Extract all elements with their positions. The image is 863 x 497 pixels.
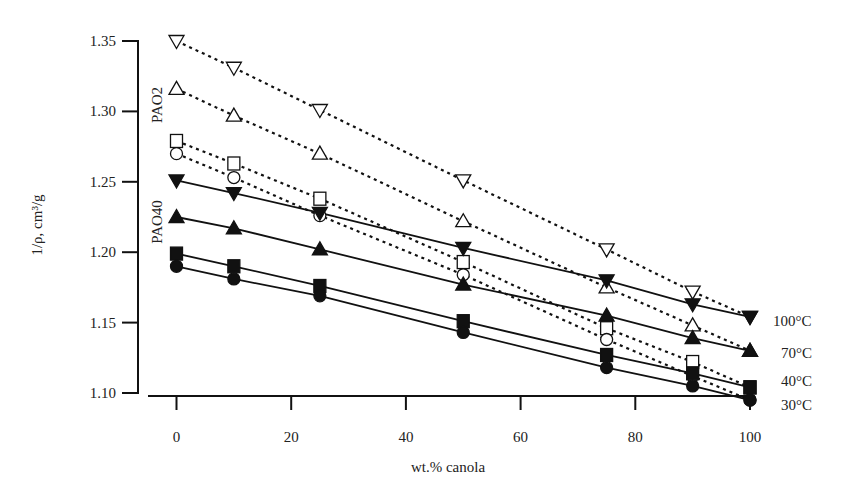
marker-pao2-100c	[685, 286, 700, 299]
y-ticks: 1.101.151.201.251.301.35	[90, 33, 138, 401]
x-tick-label: 60	[513, 429, 528, 445]
y-tick-label: 1.30	[90, 103, 116, 119]
marker-pao2-40c	[171, 134, 183, 147]
marker-pao40-40c	[171, 247, 183, 260]
x-tick-label: 40	[398, 429, 413, 445]
marker-pao2-70c	[169, 81, 184, 94]
marker-pao40-40c	[744, 381, 756, 394]
marker-pao2-70c	[312, 146, 327, 159]
annotation-pao40: PAO40	[149, 200, 165, 244]
marker-pao2-100c	[599, 244, 614, 257]
marker-pao40-40c	[228, 260, 240, 273]
x-tick-label: 0	[173, 429, 181, 445]
marker-pao2-40c	[314, 192, 326, 205]
temperature-labels: 100°C70°C40°C30°C	[773, 313, 812, 413]
chart: 1.101.151.201.251.301.35 020406080100 1/…	[0, 0, 863, 497]
temperature-label: 30°C	[781, 397, 812, 413]
temperature-label: 70°C	[781, 345, 812, 361]
marker-pao40-30c	[687, 380, 699, 392]
marker-pao2-70c	[456, 214, 471, 227]
marker-pao2-40c	[601, 322, 613, 335]
temperature-label: 100°C	[773, 313, 812, 329]
y-tick-label: 1.15	[90, 315, 116, 331]
marker-pao40-70c	[169, 210, 184, 223]
marker-pao2-30c	[171, 148, 183, 160]
marker-pao40-30c	[171, 260, 183, 272]
marker-pao40-30c	[601, 362, 613, 374]
series-markers	[169, 36, 758, 407]
marker-pao2-100c	[226, 62, 241, 75]
marker-pao40-30c	[744, 394, 756, 406]
marker-pao2-70c	[226, 108, 241, 121]
y-tick-label: 1.20	[90, 244, 116, 260]
y-tick-label: 1.35	[90, 33, 116, 49]
marker-pao2-100c	[312, 104, 327, 117]
y-axis-title: 1/ρ, cm³/g	[29, 194, 45, 256]
x-tick-label: 100	[739, 429, 762, 445]
marker-pao40-40c	[687, 367, 699, 380]
x-axis-title: wt.% canola	[411, 459, 485, 475]
marker-pao40-40c	[457, 315, 469, 328]
x-tick-label: 80	[628, 429, 643, 445]
annotation-pao2: PAO2	[149, 87, 165, 123]
x-tick-label: 20	[284, 429, 299, 445]
marker-pao40-30c	[228, 273, 240, 285]
marker-pao40-40c	[601, 348, 613, 361]
marker-pao40-30c	[314, 290, 326, 302]
marker-pao2-70c	[685, 318, 700, 331]
temperature-label: 40°C	[781, 373, 812, 389]
marker-pao40-30c	[457, 326, 469, 338]
y-tick-label: 1.10	[90, 385, 116, 401]
marker-pao2-100c	[169, 36, 184, 49]
marker-pao2-100c	[456, 175, 471, 188]
marker-pao2-30c	[601, 333, 613, 345]
marker-pao2-40c	[228, 157, 240, 170]
x-ticks: 020406080100	[173, 396, 762, 445]
marker-pao2-40c	[457, 256, 469, 269]
marker-pao40-100c	[743, 311, 758, 324]
marker-pao2-30c	[228, 172, 240, 184]
y-tick-label: 1.25	[90, 174, 116, 190]
